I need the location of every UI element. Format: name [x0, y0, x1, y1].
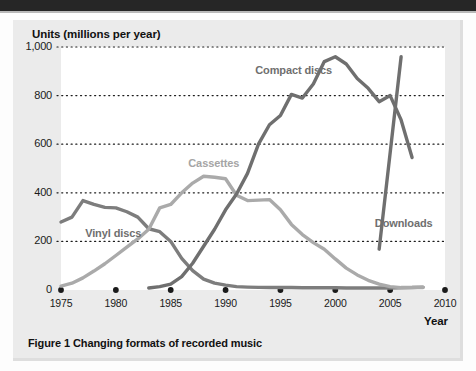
series-label-compact-discs: Compact discs: [255, 64, 332, 76]
y-axis-tick-label: 1,000: [12, 40, 52, 52]
x-axis-tick-label: 2005: [370, 297, 410, 309]
x-axis-tick-marker: [223, 287, 229, 293]
x-axis-tick-marker: [442, 287, 448, 293]
y-axis-tick-label: 800: [12, 89, 52, 101]
x-axis-tick-label: 2010: [425, 297, 465, 309]
y-axis-tick-label: 200: [12, 234, 52, 246]
y-axis-tick-label: 600: [12, 137, 52, 149]
series-label-downloads: Downloads: [375, 217, 433, 229]
x-axis-tick-label: 2000: [315, 297, 355, 309]
y-axis-tick-label: 400: [12, 186, 52, 198]
chart-canvas: [0, 0, 476, 371]
x-axis-tick-marker: [168, 287, 174, 293]
series-lines-group: [61, 57, 423, 288]
x-axis-tick-marker: [58, 287, 64, 293]
x-axis-tick-label: 1995: [260, 297, 300, 309]
series-label-cassettes: Cassettes: [188, 157, 239, 169]
x-axis-tick-marker: [113, 287, 119, 293]
x-axis-tick-label: 1980: [96, 297, 136, 309]
series-line-compact-discs: [149, 57, 412, 288]
x-axis-tick-label: 1990: [206, 297, 246, 309]
x-axis-title: Year: [424, 315, 448, 327]
series-label-vinyl-discs: Vinyl discs: [85, 227, 141, 239]
figure-caption: Figure 1 Changing formats of recorded mu…: [28, 337, 262, 349]
y-axis-tick-label: 0: [12, 283, 52, 295]
x-axis-tick-label: 1975: [41, 297, 81, 309]
series-line-vinyl-discs: [61, 201, 423, 288]
figure-root: Units (millions per year) 02004006008001…: [0, 0, 476, 371]
x-axis-tick-label: 1985: [151, 297, 191, 309]
